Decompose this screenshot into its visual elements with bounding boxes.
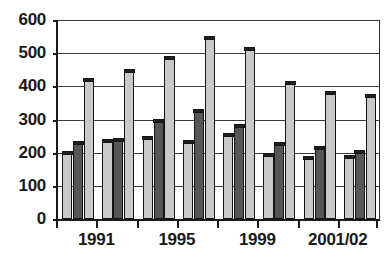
bar-top-cap xyxy=(102,139,113,143)
bar xyxy=(62,151,72,219)
bar-top-cap xyxy=(354,150,365,154)
bar xyxy=(164,56,174,219)
bar-top-cap xyxy=(183,140,194,144)
bar-top-cap xyxy=(314,146,325,150)
x-axis-tick-mark xyxy=(137,221,139,228)
bar-group xyxy=(300,20,340,219)
bar xyxy=(355,150,365,219)
bar-group xyxy=(58,20,98,219)
bar-top-cap xyxy=(325,91,336,95)
bar-top-cap xyxy=(303,156,314,160)
bar-top-cap xyxy=(263,153,274,157)
bar-top-cap xyxy=(73,141,84,145)
bar xyxy=(124,69,134,219)
bar xyxy=(285,81,295,219)
x-axis-tick-marks xyxy=(56,221,378,229)
bar xyxy=(245,47,255,219)
bar-group xyxy=(259,20,299,219)
x-axis-tick-mark xyxy=(298,221,300,228)
x-axis-tick-mark xyxy=(177,221,179,228)
bar xyxy=(102,139,112,219)
bar-top-cap xyxy=(204,36,215,40)
x-axis-tick-mark xyxy=(96,221,98,228)
bar-group xyxy=(98,20,138,219)
y-axis-tick-labels: 0100200300400500600 xyxy=(0,0,52,266)
bar xyxy=(315,146,325,219)
x-axis-tick-label: 2001/02 xyxy=(308,230,367,250)
bar-group xyxy=(139,20,179,219)
y-axis-tick-label: 300 xyxy=(19,110,46,130)
bar-top-cap xyxy=(344,155,355,159)
bar-group xyxy=(340,20,380,219)
x-axis-tick-mark xyxy=(217,221,219,228)
x-axis-tick-label: 1999 xyxy=(239,230,276,250)
bar-top-cap xyxy=(193,109,204,113)
x-axis-tick-labels: 1991199519992001/02 xyxy=(56,230,378,260)
y-axis-tick-label: 0 xyxy=(37,209,46,229)
bar xyxy=(325,91,335,219)
y-axis-tick-label: 500 xyxy=(19,43,46,63)
bar xyxy=(154,120,164,220)
bar xyxy=(274,142,284,219)
bar xyxy=(263,153,273,219)
bar-top-cap xyxy=(113,138,124,142)
bar-top-cap xyxy=(365,94,376,98)
bar-top-cap xyxy=(285,81,296,85)
bar-group xyxy=(179,20,219,219)
y-axis-tick-label: 200 xyxy=(19,143,46,163)
bar-top-cap xyxy=(164,56,175,60)
bar-top-cap xyxy=(124,69,135,73)
x-axis-tick-label: 1991 xyxy=(78,230,115,250)
bar xyxy=(304,156,314,219)
bar xyxy=(113,138,123,219)
bar xyxy=(143,136,153,219)
x-axis-tick-mark xyxy=(257,221,259,228)
bar xyxy=(183,140,193,219)
bar xyxy=(205,37,215,219)
bar-top-cap xyxy=(142,136,153,140)
bar xyxy=(84,78,94,219)
bar-top-cap xyxy=(153,119,164,123)
bar-top-cap xyxy=(274,142,285,146)
bar xyxy=(194,110,204,219)
x-axis-tick-mark xyxy=(338,221,340,228)
bar xyxy=(234,124,244,219)
bar-group xyxy=(219,20,259,219)
plot-area xyxy=(56,20,380,221)
bar-top-cap xyxy=(244,47,255,51)
bar-chart: 0100200300400500600 1991199519992001/02 xyxy=(0,0,385,266)
y-axis-tick-label: 600 xyxy=(19,10,46,30)
y-axis-tick-label: 100 xyxy=(19,176,46,196)
x-axis-tick-label: 1995 xyxy=(158,230,195,250)
bar-top-cap xyxy=(234,124,245,128)
bar xyxy=(223,134,233,219)
x-axis-tick-mark xyxy=(56,221,58,228)
bars-layer xyxy=(58,20,380,219)
bar-top-cap xyxy=(83,78,94,82)
y-axis-tick-label: 400 xyxy=(19,76,46,96)
bar-top-cap xyxy=(223,133,234,137)
bar xyxy=(344,155,354,219)
bar xyxy=(366,95,376,219)
bar xyxy=(73,141,83,219)
x-axis-tick-mark xyxy=(376,221,378,228)
bar-top-cap xyxy=(62,151,73,155)
